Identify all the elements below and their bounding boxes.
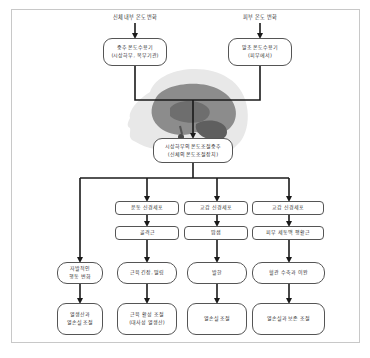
central-receptor-line2: (시상하부, 복부기관) — [111, 52, 158, 60]
step-label: 땀샘 — [211, 229, 221, 237]
outcome-line1: 열손실과 보존 조절 — [267, 315, 310, 323]
response-line1: 혈관 수축과 이완 — [269, 269, 307, 277]
skin-temp-change-label: 피부 온도 변화 — [225, 14, 295, 22]
behavior-change-box: 자발적인 행동 변화 — [57, 262, 103, 284]
central-receptor-line1: 중추 온도수용기 — [117, 44, 154, 52]
sweating-box: 발한 — [187, 262, 247, 284]
peripheral-thermoreceptor-box: 말초 온도수용기 (피부에서) — [228, 38, 292, 66]
response-line1: 자발적인 — [70, 265, 90, 273]
outcome-line2: 열손실 조절 — [67, 319, 94, 327]
outcome-line2: (대사성 열생산) — [129, 319, 165, 327]
muscle-tension-shivering-box: 근육 긴장, 떨림 — [117, 262, 177, 284]
hypothalamus-center-box: 시상하부의 온도조절중추 (신체의 온도조절장치) — [153, 138, 233, 163]
response-line2: 행동 변화 — [69, 273, 91, 281]
peripheral-receptor-line1: 말초 온도수용기 — [242, 44, 279, 52]
response-line1: 발한 — [212, 269, 222, 277]
sweat-gland-box: 땀샘 — [184, 226, 248, 240]
vasoconstriction-dilation-box: 혈관 수축과 이완 — [252, 262, 325, 284]
sympathetic-neuron-box-vessel: 교감 신경세포 — [252, 201, 324, 215]
heat-loss-conservation-box: 열손실과 보존 조절 — [252, 303, 325, 335]
step-label: 골격근 — [140, 229, 155, 237]
heat-loss-box: 열손실 조절 — [187, 303, 247, 335]
sympathetic-neuron-box-sweat: 교감 신경세포 — [184, 201, 248, 215]
center-line1: 시상하부의 온도조절중추 — [165, 143, 222, 151]
heat-production-loss-box: 열생산과 열손실 조절 — [57, 303, 103, 335]
outcome-line1: 열생산과 — [70, 311, 90, 319]
peripheral-receptor-line2: (피부에서) — [248, 52, 272, 60]
step-label: 교감 신경세포 — [272, 204, 304, 212]
step-label: 교감 신경세포 — [200, 204, 232, 212]
center-line2: (신체의 온도조절장치) — [168, 151, 219, 159]
response-line1: 근육 긴장, 떨림 — [130, 269, 165, 277]
step-label: 피부 세동맥 평활근 — [266, 229, 309, 237]
muscle-activity-box: 근육 활성 조절 (대사성 열생산) — [117, 303, 177, 335]
step-label: 운동 신경세포 — [131, 204, 163, 212]
motor-neuron-box: 운동 신경세포 — [115, 201, 179, 215]
outcome-line1: 열손실 조절 — [204, 315, 231, 323]
outcome-line1: 근육 활성 조절 — [130, 311, 163, 319]
skeletal-muscle-box: 골격근 — [115, 226, 179, 240]
internal-temp-change-label: 신체 내부 온도 변화 — [100, 14, 170, 22]
central-thermoreceptor-box: 중추 온도수용기 (시상하부, 복부기관) — [103, 38, 167, 66]
arteriole-smooth-muscle-box: 피부 세동맥 평활근 — [252, 226, 324, 240]
